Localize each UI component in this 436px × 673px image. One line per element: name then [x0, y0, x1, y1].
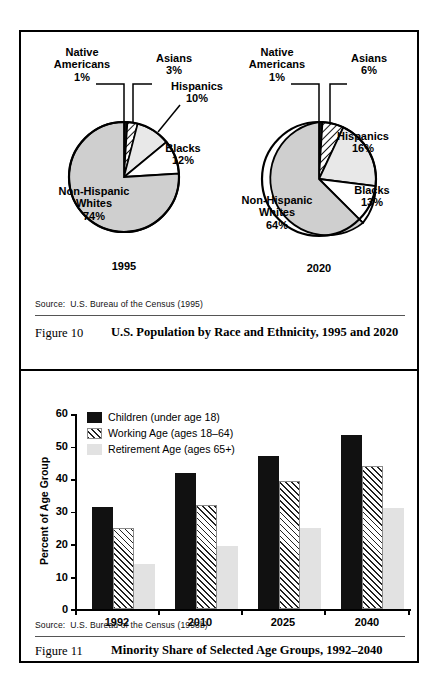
outer-frame: Native Americans 1% Asians 3% Hispanics … [19, 30, 419, 663]
pie-1995-label-native: Native Americans 1% [34, 46, 130, 83]
legend-label-retirement: Retirement Age (ages 65+) [108, 443, 235, 455]
bar-2040-working [362, 466, 383, 609]
leader-line-native [291, 84, 319, 122]
figure-11-rule [35, 636, 405, 637]
y-tick-20: 20 [48, 538, 68, 550]
pie-chart-2020: Native Americans 1% Asians 6% Hispanics … [217, 32, 417, 302]
legend-label-children: Children (under age 18) [108, 411, 220, 423]
pie-1995-label-asians: Asians 3% [143, 52, 205, 77]
leader-line-hispanics [158, 105, 180, 132]
x-label-2025: 2025 [253, 616, 313, 628]
figure-11-source: Source: U.S. Bureau of the Census (1993b… [35, 620, 208, 630]
x-tickmark-2 [241, 610, 243, 615]
y-tick-50: 50 [48, 440, 68, 452]
pie-1995-label-whites: Non-Hispanic Whites 74% [47, 185, 141, 222]
bar-2010-children [175, 473, 196, 609]
legend-item-retirement: Retirement Age (ages 65+) [87, 443, 235, 455]
pie-2020-label-asians: Asians 6% [338, 52, 400, 77]
pie-2020-year: 2020 [279, 262, 359, 274]
y-tick-10: 10 [48, 571, 68, 583]
legend-swatch-retirement [87, 444, 102, 455]
bar-2040-retirement [383, 508, 404, 609]
pie-chart-1995: Native Americans 1% Asians 3% Hispanics … [21, 32, 221, 302]
bar-2025-working [279, 481, 300, 609]
figure-10-caption-text: U.S. Population by Race and Ethnicity, 1… [111, 325, 401, 341]
pie-2020-label-whites: Non-Hispanic Whites 64% [229, 194, 325, 231]
bar-2010-working [196, 505, 217, 609]
pie-2020-label-blacks: Blacks 13% [341, 184, 403, 209]
bar-1992-retirement [134, 564, 155, 609]
figure-11-caption-number: Figure 11 [35, 644, 83, 659]
x-axis-line [75, 609, 411, 611]
x-label-2040: 2040 [337, 616, 397, 628]
y-tick-40: 40 [48, 472, 68, 484]
bar-2025-retirement [300, 528, 321, 609]
pie-1995-year: 1995 [84, 260, 164, 272]
leader-line-native [96, 84, 124, 122]
x-tickmark-1 [158, 610, 160, 615]
bar-2040-children [341, 435, 362, 609]
figure-10-rule [35, 315, 405, 316]
pie-2020-label-hispanics: Hispanics 16% [325, 130, 401, 155]
y-tick-30: 30 [48, 505, 68, 517]
x-tickmark-3 [324, 610, 326, 615]
figure-page: Native Americans 1% Asians 3% Hispanics … [0, 0, 436, 673]
y-tick-60: 60 [48, 407, 68, 419]
bar-2010-retirement [217, 546, 238, 609]
legend-swatch-children [87, 412, 102, 423]
legend-item-children: Children (under age 18) [87, 411, 220, 423]
x-tickmark-0 [75, 610, 77, 615]
bar-2025-children [258, 456, 279, 609]
leader-line-asians [330, 84, 347, 125]
figure-11-caption-text: Minority Share of Selected Age Groups, 1… [111, 643, 411, 659]
pie-1995-label-blacks: Blacks 12% [154, 142, 212, 167]
figure-10-source: Source: U.S. Bureau of the Census (1995) [35, 299, 203, 309]
bar-1992-working [113, 528, 134, 609]
bar-1992-children [92, 507, 113, 609]
legend-label-working: Working Age (ages 18–64) [108, 427, 233, 439]
x-tickmark-4 [408, 610, 410, 615]
y-tick-0: 0 [48, 603, 68, 615]
figure-10-caption-number: Figure 10 [35, 326, 83, 341]
legend-swatch-working [87, 428, 102, 439]
leader-line-asians [133, 84, 152, 123]
legend-item-working: Working Age (ages 18–64) [87, 427, 233, 439]
pie-2020-label-native: Native Americans 1% [229, 46, 325, 83]
bar-chart: Percent of Age Group 60 50 40 30 20 10 0 [21, 369, 417, 624]
